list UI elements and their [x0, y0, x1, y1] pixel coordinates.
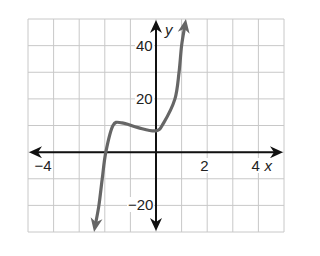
x-tick-label: 2 [199, 158, 209, 173]
x-axis-label: x [264, 158, 272, 173]
x-tick-label: −4 [34, 158, 53, 173]
y-axis-label: y [165, 22, 173, 37]
x-tick-label: 4 [250, 158, 260, 173]
y-tick-label: 40 [135, 38, 154, 53]
y-tick-label: −20 [127, 197, 154, 212]
y-tick-label: 20 [135, 91, 154, 106]
